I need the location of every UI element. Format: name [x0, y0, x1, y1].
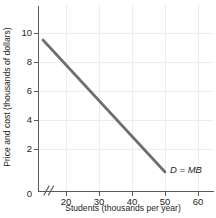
demand-curve-line: [43, 40, 165, 172]
plot-area: [0, 0, 216, 218]
ytick-label-8: 8: [14, 57, 32, 67]
x-axis-title: Students (thousands per year): [30, 204, 216, 213]
curve-label-demand: D = MB: [170, 165, 202, 175]
ytick-label-2: 2: [14, 144, 32, 154]
y-axis-ticks: [34, 34, 39, 150]
xtick-label-60: 60: [193, 197, 204, 207]
xtick-label-50: 50: [160, 197, 171, 207]
grid-horizontal: [38, 34, 214, 150]
ytick-label-0: 0: [14, 189, 32, 199]
xtick-label-30: 30: [94, 197, 105, 207]
ytick-label-10: 10: [14, 28, 32, 38]
axis-break-icon: [44, 186, 54, 195]
ytick-label-4: 4: [14, 115, 32, 125]
y-axis-title: Price and cost (thousands of dollars): [1, 2, 13, 192]
xtick-label-40: 40: [127, 197, 138, 207]
xtick-label-20: 20: [61, 197, 72, 207]
ytick-label-6: 6: [14, 86, 32, 96]
chart-figure: Price and cost (thousands of dollars) St…: [0, 0, 216, 218]
grid-vertical: [67, 4, 199, 191]
